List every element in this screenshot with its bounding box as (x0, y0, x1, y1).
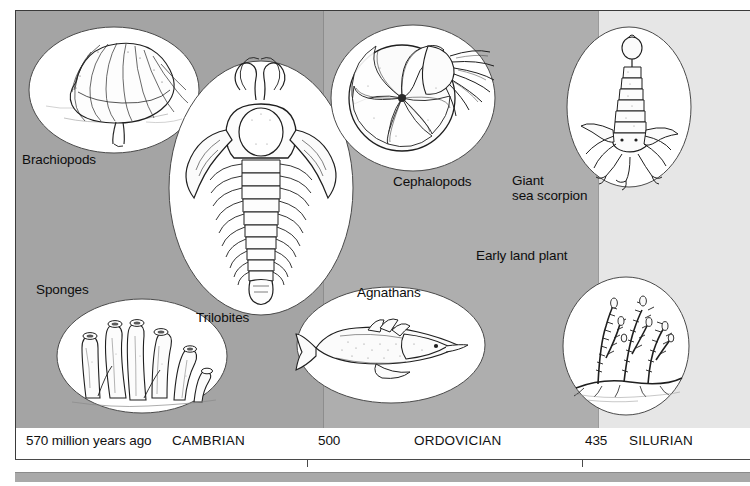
vignette-trilobites (168, 60, 354, 316)
label-cephalopods: Cephalopods (393, 174, 471, 189)
vignette-early-land-plant (562, 276, 690, 416)
label-agnathans: Agnathans (357, 285, 421, 300)
axis-label-cambrian: CAMBRIAN (172, 433, 245, 448)
axis-tick-500 (307, 459, 308, 467)
figure-bottom-band (15, 472, 750, 482)
axis-label-silurian: SILURIAN (629, 433, 693, 448)
vignette-cephalopods (330, 24, 496, 172)
vignette-agnathans (296, 286, 486, 404)
paleozoic-timeline-figure: Brachiopods Sponges Trilobites Cephalopo… (0, 0, 750, 486)
axis-label-ordovician: ORDOVICIAN (414, 433, 502, 448)
label-early-land-plant: Early land plant (476, 248, 567, 263)
label-sponges: Sponges (36, 282, 89, 297)
label-brachiopods: Brachiopods (22, 152, 96, 167)
vignette-sea-scorpion (566, 26, 692, 188)
axis-label-start: 570 million years ago (26, 433, 151, 448)
label-trilobites: Trilobites (196, 310, 249, 325)
label-sea-scorpion: Giant sea scorpion (512, 173, 587, 203)
axis-tick-label-500: 500 (318, 433, 340, 448)
axis-tick-label-435: 435 (585, 433, 607, 448)
axis-tick-435 (582, 459, 583, 467)
timeline-axis-line (15, 459, 750, 460)
